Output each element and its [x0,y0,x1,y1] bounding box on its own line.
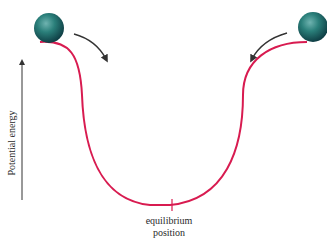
left-ball [34,13,64,43]
left-motion-arrow-icon [74,34,106,59]
equilibrium-label-line2: position [129,227,209,239]
right-ball [298,12,327,42]
axis-label-potential-energy: Potential energy [6,93,20,193]
equilibrium-label-line1: equilibrium [129,215,209,227]
equilibrium-position-label: equilibrium position [129,215,209,239]
potential-curve [40,42,307,205]
potential-energy-diagram [0,0,327,248]
